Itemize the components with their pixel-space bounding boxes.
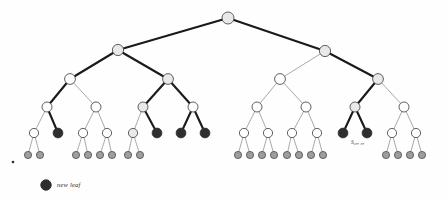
internal-node — [128, 128, 137, 137]
internal-node — [387, 128, 396, 137]
stray-dot — [12, 161, 15, 164]
internal-node — [29, 128, 38, 137]
internal-node — [319, 45, 330, 56]
legend-new-leaf-label: new leaf — [57, 181, 80, 188]
tree-edge — [118, 50, 168, 79]
tree-edge — [325, 51, 378, 79]
internal-node — [411, 128, 420, 137]
internal-node — [222, 12, 234, 24]
internal-node — [373, 74, 384, 85]
leaf-node — [295, 151, 302, 158]
new-leaf-node — [338, 128, 348, 138]
tree-edge — [70, 50, 118, 79]
internal-node — [42, 102, 52, 112]
legend-layer — [12, 161, 51, 191]
leaf-node — [24, 151, 31, 158]
leaf-node — [406, 151, 413, 158]
internal-node — [399, 102, 409, 112]
leaf-node — [394, 151, 401, 158]
internal-node — [312, 128, 321, 137]
internal-node — [263, 128, 272, 137]
nodes-layer — [24, 12, 425, 159]
new-leaf-marker — [41, 180, 51, 190]
internal-node — [301, 102, 311, 112]
leaf-node — [36, 151, 43, 158]
internal-node — [91, 102, 101, 112]
leaf-node — [270, 151, 277, 158]
node-label-s: S₉₈, ₅₈ — [351, 139, 364, 145]
internal-node — [163, 74, 174, 85]
leaf-node — [108, 151, 115, 158]
tree-edge — [280, 51, 325, 79]
leaf-node — [283, 151, 290, 158]
internal-node — [112, 44, 123, 55]
leaf-node — [258, 151, 265, 158]
internal-node — [287, 128, 296, 137]
internal-node — [239, 128, 248, 137]
internal-node — [350, 102, 360, 112]
leaf-node — [307, 151, 314, 158]
leaf-node — [319, 151, 326, 158]
leaf-node — [84, 151, 91, 158]
new-leaf-node — [200, 128, 210, 138]
leaf-node — [246, 151, 253, 158]
leaf-node — [382, 151, 389, 158]
new-leaf-node — [176, 128, 186, 138]
internal-node — [102, 128, 111, 137]
leaf-node — [72, 151, 79, 158]
internal-node — [188, 102, 198, 112]
internal-node — [138, 102, 148, 112]
leaf-node — [418, 151, 425, 158]
new-leaf-node — [53, 128, 63, 138]
internal-node — [65, 74, 76, 85]
tree-figure: new leaf S₉₈, ₅₈ — [0, 0, 448, 202]
leaf-node — [96, 151, 103, 158]
tree-edge — [228, 18, 325, 51]
internal-node — [275, 74, 286, 85]
new-leaf-node — [152, 128, 162, 138]
leaf-node — [136, 151, 143, 158]
new-leaf-node — [362, 128, 372, 138]
internal-node — [252, 102, 262, 112]
tree-edge — [118, 18, 228, 50]
internal-node — [78, 128, 87, 137]
leaf-node — [234, 151, 241, 158]
tree-diagram — [0, 0, 448, 202]
leaf-node — [124, 151, 131, 158]
